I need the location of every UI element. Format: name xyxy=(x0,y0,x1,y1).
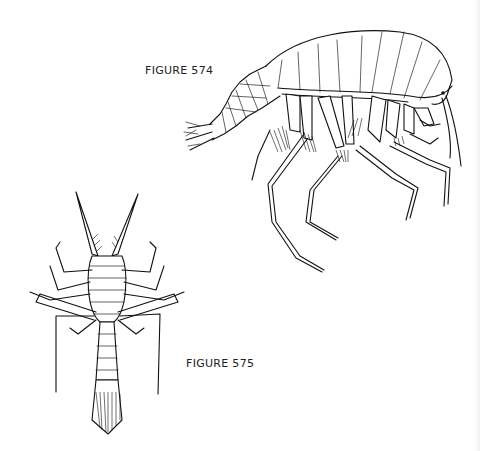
dorsal-crustacean xyxy=(30,192,184,434)
amphipod-legs xyxy=(252,94,450,272)
figure-574-illustration xyxy=(0,0,480,451)
